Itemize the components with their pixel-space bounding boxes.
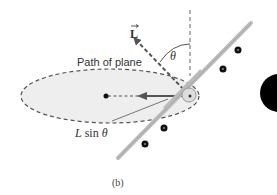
L-sin-theta-label: L sin θ [74, 126, 108, 140]
L-vector-label: L [130, 25, 139, 42]
fuselage-center-dot [189, 95, 192, 98]
path-of-plane-label: Path of plane [77, 56, 142, 68]
large-body-circle [260, 74, 277, 112]
theta-label: θ [170, 49, 176, 63]
path-center-dot [104, 94, 109, 99]
svg-text:L: L [130, 27, 138, 41]
figure-caption: (b) [112, 177, 124, 189]
banking-plane-angular-momentum-diagram: L θ Path of plane L sin θ (b) [0, 0, 277, 195]
